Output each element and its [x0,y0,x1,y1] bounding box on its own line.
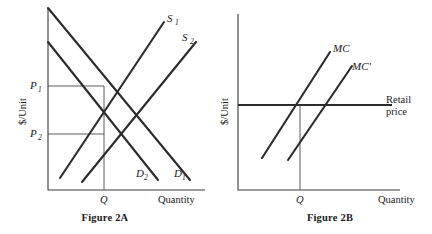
demand-curve-d1 [48,8,190,180]
curve-label-mc: MC [332,42,350,54]
demand-curve-d2 [48,42,158,180]
figure-b-x-axis-label: Quantity [378,194,415,205]
curve-label-d2-sub: 2 [144,173,148,182]
figure-a-x-axis-label: Quantity [158,194,195,205]
curve-label-d1-sub: 1 [182,173,186,182]
price-label-2-base: P [29,127,37,139]
figure-b-quantity-label: Q [296,194,304,205]
figure-a-price-label-2: P 2 [29,127,42,142]
figure-a-group: $/Unit Quantity P 1 P 2 Q S 1 S 2 [17,8,205,223]
curve-label-s1-base: S [167,12,173,24]
figure-board: $/Unit Quantity P 1 P 2 Q S 1 S 2 [0,0,432,234]
curve-label-s2-sub: 2 [190,37,194,46]
curve-label-s2-base: S [182,31,188,43]
retail-price-label-line2: price [386,106,407,117]
marginal-cost-curve-mc-prime [288,66,352,160]
curve-label-d1-base: D [173,167,182,179]
curve-label-d1: D 1 [173,167,186,182]
figure-b-group: $/Unit Quantity Q MC MC' Retail price Fi… [219,14,415,223]
price-label-2-sub: 2 [38,133,42,142]
figure-a-y-axis-label: $/Unit [17,98,28,125]
figure-b-caption: Figure 2B [307,212,353,223]
price-label-1-base: P [29,79,37,91]
retail-price-label-line1: Retail [386,94,411,105]
curve-label-s1: S 1 [167,12,179,27]
curve-label-d2-base: D [135,167,144,179]
curve-label-d2: D 2 [135,167,148,182]
supply-curve-s2 [82,42,196,182]
figure-a-caption: Figure 2A [82,212,129,223]
curve-label-s1-sub: 1 [175,18,179,27]
curve-label-s2: S 2 [182,31,194,46]
diagram-canvas: $/Unit Quantity P 1 P 2 Q S 1 S 2 [0,0,432,234]
figure-b-y-axis-label: $/Unit [219,98,230,125]
curve-label-mc-prime: MC' [351,60,372,72]
price-label-1-sub: 1 [38,85,42,94]
figure-b-axes [238,14,400,190]
figure-a-price-label-1: P 1 [29,79,42,94]
figure-a-quantity-label: Q [100,194,108,205]
